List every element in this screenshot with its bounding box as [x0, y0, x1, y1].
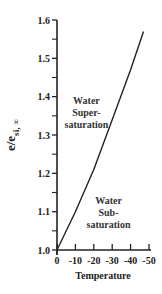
- annotation-line: saturation: [64, 119, 108, 130]
- y-axis-label-main: e/e: [3, 136, 18, 151]
- x-tick-label: -20: [87, 255, 100, 266]
- annotation: WaterSuper-saturation: [64, 95, 108, 130]
- x-axis-label: Temperature: [75, 270, 131, 281]
- y-axis-label: e/esi, ∞: [3, 119, 21, 151]
- annotation-line: Water: [95, 195, 122, 206]
- x-tick-label: -50: [142, 255, 155, 266]
- y-tick-label: 1.3: [38, 130, 51, 141]
- y-tick-label: 1.6: [38, 15, 51, 26]
- x-tick-label: -30: [106, 255, 119, 266]
- y-tick-label: 1.5: [38, 53, 51, 64]
- y-tick-label: 1.0: [38, 245, 51, 256]
- x-ticks: 0-10-20-30-40-50: [55, 244, 156, 266]
- y-axis-label-subscript: si, ∞: [11, 119, 21, 136]
- annotation-line: saturation: [87, 219, 131, 230]
- x-tick-label: -40: [124, 255, 137, 266]
- chart: 1.01.11.21.31.41.51.6 0-10-20-30-40-50 W…: [0, 0, 162, 294]
- y-ticks: 1.01.11.21.31.41.51.6: [38, 15, 58, 256]
- annotations: WaterSuper-saturationWaterSub-saturation: [64, 95, 130, 230]
- x-tick-label: 0: [55, 255, 60, 266]
- annotation-line: Water: [73, 95, 100, 106]
- y-tick-label: 1.1: [38, 206, 51, 217]
- y-tick-label: 1.4: [38, 91, 51, 102]
- annotation-line: Sub-: [99, 207, 119, 218]
- x-tick-label: -10: [69, 255, 82, 266]
- annotation: WaterSub-saturation: [87, 195, 131, 230]
- annotation-line: Super-: [72, 107, 101, 118]
- y-tick-label: 1.2: [38, 168, 51, 179]
